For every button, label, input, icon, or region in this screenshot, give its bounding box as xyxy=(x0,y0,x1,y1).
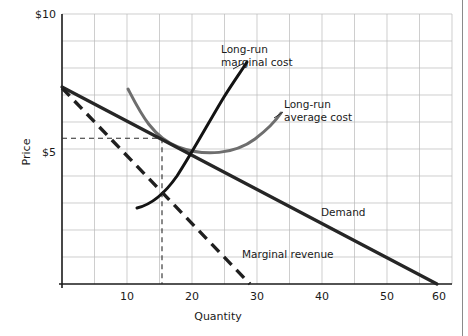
y-tick-labels: $10 $5 xyxy=(35,8,56,159)
chart-canvas: $10 $5 10 20 30 40 50 60 Price Quantity … xyxy=(0,0,468,336)
x-tick-label-60: 60 xyxy=(432,290,446,303)
economics-chart-figure: $10 $5 10 20 30 40 50 60 Price Quantity … xyxy=(0,0,468,336)
y-axis-title: Price xyxy=(20,138,33,165)
lrmc-label-line1: Long-run xyxy=(221,43,268,55)
lrac-label-line2: average cost xyxy=(284,111,352,123)
equilibrium-guides xyxy=(62,138,162,284)
curve-marginal-revenue xyxy=(62,88,250,284)
y-tick-label-10: $10 xyxy=(35,8,56,21)
x-tick-labels: 10 20 30 40 50 60 xyxy=(120,290,446,303)
x-axis-title: Quantity xyxy=(194,310,242,323)
x-tick-label-30: 30 xyxy=(250,290,264,303)
label-long-run-average-cost: Long-run average cost xyxy=(284,98,352,123)
label-long-run-marginal-cost: Long-run marginal cost xyxy=(221,43,293,68)
label-marginal-revenue: Marginal revenue xyxy=(242,248,334,260)
lrmc-label-line2: marginal cost xyxy=(221,56,293,68)
curve-long-run-average-cost xyxy=(128,89,281,153)
label-demand: Demand xyxy=(321,206,366,218)
y-tick-label-5: $5 xyxy=(42,146,56,159)
x-tick-label-20: 20 xyxy=(185,290,199,303)
x-tick-label-50: 50 xyxy=(380,290,394,303)
lrac-label-line1: Long-run xyxy=(284,98,331,110)
x-tick-label-40: 40 xyxy=(315,290,329,303)
x-tick-label-10: 10 xyxy=(120,290,134,303)
